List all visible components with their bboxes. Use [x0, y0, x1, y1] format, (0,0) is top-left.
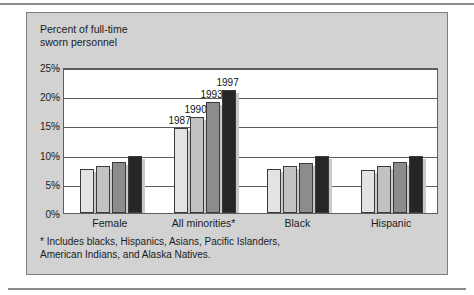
bar-1987-black — [267, 169, 281, 213]
year-label-1987: 1987 — [169, 115, 191, 126]
bar-1987-female — [80, 169, 94, 213]
x-axis-label-female: Female — [92, 217, 127, 229]
year-label-1993: 1993 — [201, 89, 223, 100]
gridline — [64, 157, 437, 158]
gridline — [64, 98, 437, 99]
gridline — [64, 69, 437, 70]
chart-footnote: * Includes blacks, Hispanics, Asians, Pa… — [40, 235, 430, 261]
x-axis-label-black: Black — [285, 217, 311, 229]
top-horizontal-rule — [0, 3, 474, 5]
y-axis-tick-mark — [56, 185, 60, 186]
bar-1993-female — [112, 162, 126, 213]
year-label-1990: 1990 — [185, 104, 207, 115]
bar-1987-allminorities — [174, 128, 188, 213]
bar-1997-allminorities — [222, 90, 236, 213]
bar-1993-hispanic — [393, 162, 407, 213]
figure-container: Percent of full-time sworn personnel 0%5… — [26, 12, 448, 275]
bar-1997-black — [315, 156, 329, 213]
bar-1990-allminorities — [190, 117, 204, 213]
plot-area — [63, 68, 438, 214]
y-axis-tick-mark — [56, 156, 60, 157]
year-label-1997: 1997 — [217, 77, 239, 88]
y-axis: 0%5%10%15%20%25% — [27, 68, 60, 214]
bar-1990-hispanic — [377, 166, 391, 213]
bar-1987-hispanic — [361, 170, 375, 213]
gridline — [64, 127, 437, 128]
bar-1993-allminorities — [206, 102, 220, 213]
bar-1990-black — [283, 166, 297, 213]
y-axis-tick-mark — [56, 68, 60, 69]
y-axis-tick-mark — [56, 126, 60, 127]
x-axis-label-allminorities: All minorities* — [172, 217, 236, 229]
y-axis-tick-mark — [56, 97, 60, 98]
y-axis-tick-mark — [56, 214, 60, 215]
bar-1990-female — [96, 166, 110, 213]
bar-1997-female — [128, 156, 142, 213]
bar-1997-hispanic — [409, 156, 423, 213]
bottom-horizontal-rule — [8, 288, 466, 290]
chart-title: Percent of full-time sworn personnel — [40, 23, 260, 49]
bar-1993-black — [299, 163, 313, 213]
x-axis-label-hispanic: Hispanic — [371, 217, 411, 229]
